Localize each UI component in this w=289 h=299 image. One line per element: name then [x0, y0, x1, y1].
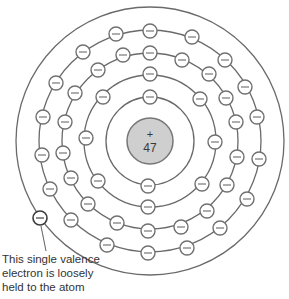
nucleus: + 47 [127, 118, 173, 164]
electron-icon [252, 152, 266, 166]
electron-icon [96, 90, 110, 104]
electron-icon [143, 90, 157, 104]
electron-icon [175, 53, 189, 67]
electron-icon [64, 171, 78, 185]
electron-icon [110, 216, 124, 230]
electron-icon [193, 92, 207, 106]
electron-icon [56, 146, 70, 160]
valence-electron-icon [33, 211, 47, 225]
annotation-leader-line [41, 226, 46, 251]
electron-icon [240, 192, 254, 206]
electron-icon [238, 80, 252, 94]
electron-icon [43, 182, 57, 196]
electron-icon [185, 30, 199, 44]
caption-line-2: electron is loosely [2, 266, 100, 280]
electron-icon [202, 67, 216, 81]
electron-icon [100, 238, 114, 252]
electron-icon [180, 241, 194, 255]
electron-icon [64, 213, 78, 227]
electron-icon [230, 150, 244, 164]
electron-icon [218, 53, 232, 67]
electron-icon [49, 76, 63, 90]
electron-icon [213, 221, 227, 235]
electron-icon [76, 45, 90, 59]
electron-icon [141, 179, 155, 193]
electron-icon [68, 86, 82, 100]
electron-icon [229, 115, 243, 129]
electron-icon [91, 63, 105, 77]
electron-icon [141, 200, 155, 214]
electron-icon [143, 24, 157, 38]
electron-icon [81, 197, 95, 211]
electron-icon [91, 174, 105, 188]
electron-icon [250, 110, 264, 124]
electron-icon [174, 220, 188, 234]
electron-icon [195, 177, 209, 191]
electron-icon [220, 178, 234, 192]
electron-icon [79, 131, 93, 145]
electron-icon [143, 46, 157, 60]
electron-icon [143, 67, 157, 81]
valence-electron-caption: This single valence electron is loosely … [2, 252, 100, 294]
caption-line-1: This single valence [2, 252, 100, 266]
electron-icon [141, 224, 155, 238]
electron-icon [141, 246, 155, 260]
nucleus-atomic-number: 47 [143, 141, 157, 155]
nucleus-charge-sign: + [147, 128, 153, 140]
electron-icon [109, 27, 123, 41]
electron-icon [208, 135, 222, 149]
caption-line-3: held to the atom [2, 280, 100, 294]
electron-icon [35, 148, 49, 162]
electron-icon [219, 91, 233, 105]
electron-icon [116, 48, 130, 62]
electron-icon [200, 204, 214, 218]
electron-icon [36, 110, 50, 124]
electron-icon [58, 115, 72, 129]
